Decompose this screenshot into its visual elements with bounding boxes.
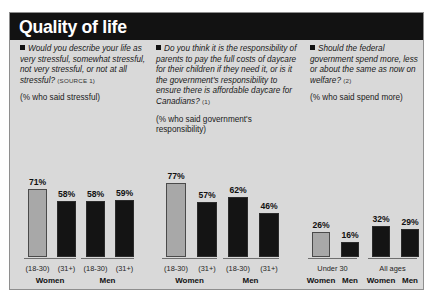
axis-baseline [308, 258, 357, 259]
bar-slot: 32% [372, 159, 390, 257]
axis-baseline [368, 258, 417, 259]
question-text-1: Would you describe your life as very str… [20, 44, 150, 86]
bar [259, 213, 279, 257]
tick-label: (18-30) [226, 264, 250, 273]
bar [86, 201, 105, 257]
header-bar: Quality of life [10, 13, 423, 40]
infographic-panel: Quality of life Would you describe your … [9, 12, 424, 290]
bar [312, 232, 330, 257]
group-label: Women [36, 276, 65, 285]
group-label: Women [175, 276, 204, 285]
tick-label: (31+) [116, 264, 133, 273]
bar-value-label: 46% [260, 201, 277, 211]
bar-slot: 58% [86, 159, 105, 257]
bar-slot: 59% [115, 159, 134, 257]
bar-value-label: 26% [312, 220, 329, 230]
bar-value-label: 16% [341, 230, 358, 240]
tick-label: (31+) [198, 264, 215, 273]
question-subtitle-2: (% who said government's responsibility) [156, 115, 301, 136]
square-bullet-icon [310, 45, 315, 50]
bar [166, 183, 186, 257]
question-column-3: Should the federal government spend more… [310, 44, 422, 104]
bar-slot: 46% [259, 159, 279, 257]
tick-label: (31+) [260, 264, 277, 273]
group-label: Men [243, 276, 259, 285]
bar-slot: 62% [228, 159, 248, 257]
bar-value-label: 71% [29, 177, 46, 187]
tick-label: Men [342, 276, 358, 285]
bar-value-label: 58% [58, 189, 75, 199]
bar [228, 197, 248, 257]
bar-slot: 29% [401, 159, 419, 257]
question-text-3: Should the federal government spend more… [310, 44, 422, 86]
square-bullet-icon [156, 45, 161, 50]
axis-baseline [81, 258, 134, 259]
bar-value-label: 58% [87, 189, 104, 199]
tick-label: Women [307, 276, 336, 285]
group-label: Men [100, 276, 116, 285]
page-title: Quality of life [19, 17, 127, 37]
bar-value-label: 62% [229, 185, 246, 195]
question-text-2: Do you think it is the responsibility of… [156, 44, 301, 108]
group-label: All ages [379, 264, 405, 273]
bar-slot: 71% [28, 159, 47, 257]
tick-label: (31+) [58, 264, 75, 273]
bar [341, 242, 359, 257]
question-legend: Would you describe your life as very str… [10, 44, 423, 148]
tick-label: Women [367, 276, 396, 285]
bar-value-label: 77% [167, 171, 184, 181]
bar [115, 200, 134, 257]
question-body-2: Do you think it is the responsibility of… [156, 44, 296, 106]
bar-value-label: 59% [116, 188, 133, 198]
chart-group-welfare: 26%16%32%29%Under 30All agesWomenMenWome… [306, 153, 422, 289]
square-bullet-icon [20, 45, 25, 50]
bar-slot: 16% [341, 159, 359, 257]
question-source-2: (1) [202, 98, 210, 105]
plot-bars: 71%58%58%59% [24, 159, 152, 257]
bar [372, 226, 390, 257]
question-column-2: Do you think it is the responsibility of… [156, 44, 301, 136]
axis-baseline [223, 258, 279, 259]
bar-slot: 57% [197, 159, 217, 257]
bar-value-label: 57% [198, 190, 215, 200]
question-subtitle-3: (% who said spend more) [310, 93, 422, 104]
bar-slot: 58% [57, 159, 76, 257]
chart-group-daycare: 77%57%62%46%(18-30)(31+)(18-30)(31+)Wome… [162, 153, 296, 289]
question-subtitle-1: (% who said stressful) [20, 93, 150, 104]
chart-area: 71%58%58%59%(18-30)(31+)(18-30)(31+)Wome… [10, 153, 423, 289]
tick-label: (18-30) [164, 264, 188, 273]
axis-baseline [162, 258, 217, 259]
bar [28, 189, 47, 257]
group-label: Under 30 [317, 264, 347, 273]
bar-value-label: 29% [401, 217, 418, 227]
bar [197, 202, 217, 257]
tick-label: (18-30) [84, 264, 108, 273]
tick-label: (18-30) [26, 264, 50, 273]
question-source-3: (2) [343, 77, 351, 84]
bar-value-label: 32% [372, 214, 389, 224]
question-source-1: (SOURCE 1) [57, 77, 95, 84]
bar [401, 229, 419, 257]
bar-slot: 26% [312, 159, 330, 257]
bar [57, 201, 76, 257]
question-body-3: Should the federal government spend more… [310, 44, 418, 85]
question-column-1: Would you describe your life as very str… [20, 44, 150, 104]
tick-label: Men [402, 276, 418, 285]
axis-baseline [24, 258, 76, 259]
bar-slot: 77% [166, 159, 186, 257]
plot-bars: 26%16%32%29% [306, 159, 422, 257]
chart-group-stress: 71%58%58%59%(18-30)(31+)(18-30)(31+)Wome… [24, 153, 152, 289]
plot-bars: 77%57%62%46% [162, 159, 296, 257]
